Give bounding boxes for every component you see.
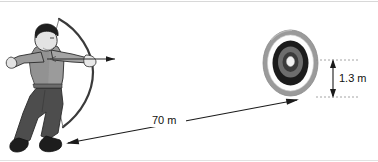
height-dimension-1-3m: 1.3 m bbox=[316, 59, 367, 98]
height-label: 1.3 m bbox=[339, 72, 367, 84]
height-arrowhead-bottom bbox=[330, 89, 336, 98]
archery-diagram: 70 m 1.3 m bbox=[0, 0, 378, 162]
distance-arrowhead-right bbox=[286, 99, 299, 105]
archer-legs bbox=[14, 86, 63, 144]
archer-figure bbox=[6, 19, 115, 152]
diagram-canvas: 70 m 1.3 m bbox=[0, 0, 378, 162]
distance-label: 70 m bbox=[152, 114, 176, 126]
distance-arrowhead-left bbox=[66, 138, 79, 144]
archer-shoe-front bbox=[39, 136, 61, 152]
target-bullseye bbox=[287, 57, 295, 67]
archer-belt bbox=[33, 84, 62, 88]
distance-dimension-70m: 70 m bbox=[66, 99, 299, 144]
arrow-head bbox=[106, 56, 115, 62]
archery-target bbox=[263, 30, 318, 96]
bow-limb bbox=[59, 19, 93, 127]
height-arrowhead-top bbox=[330, 59, 336, 68]
archer-shoe-back bbox=[10, 138, 28, 152]
archer-bow-hand bbox=[84, 55, 96, 67]
